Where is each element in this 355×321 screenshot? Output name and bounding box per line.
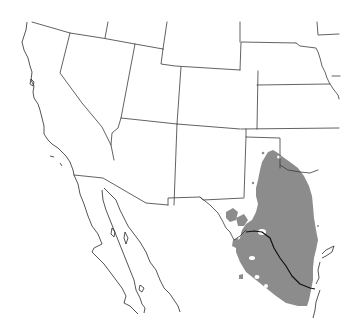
range-map [0, 0, 355, 321]
